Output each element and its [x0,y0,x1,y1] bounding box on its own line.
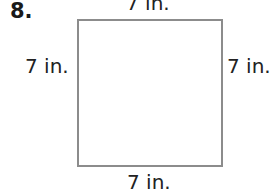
problem-number: 8. [10,1,33,22]
side-label-bottom: 7 in. [127,172,171,192]
square-figure [77,19,223,167]
side-label-left: 7 in. [25,56,69,76]
side-label-top: 7 in. [126,0,170,13]
side-label-right: 7 in. [227,56,271,76]
